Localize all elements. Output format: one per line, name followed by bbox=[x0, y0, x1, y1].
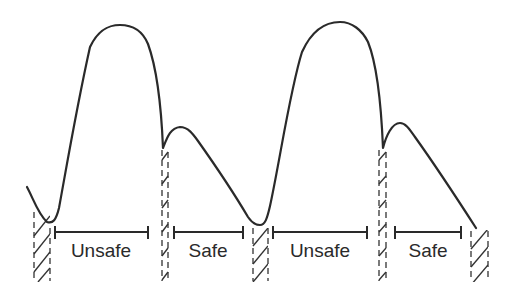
label-unsafe-1: Unsafe bbox=[71, 240, 131, 261]
bracket-unsafe-2 bbox=[273, 226, 367, 239]
bracket-safe-1 bbox=[174, 226, 243, 239]
label-unsafe-2: Unsafe bbox=[290, 240, 350, 261]
label-safe-2: Safe bbox=[408, 240, 447, 261]
hatched-marker-5 bbox=[471, 229, 488, 285]
label-safe-1: Safe bbox=[188, 240, 227, 261]
hatched-marker-2 bbox=[162, 150, 168, 281]
waveform-diagram: Unsafe Safe Unsafe Safe bbox=[0, 0, 514, 296]
bracket-unsafe-1 bbox=[55, 226, 148, 239]
bracket-safe-2 bbox=[395, 226, 461, 239]
pressure-waveform bbox=[27, 22, 476, 228]
hatched-marker-4 bbox=[379, 150, 386, 281]
hatched-marker-3 bbox=[253, 228, 268, 282]
